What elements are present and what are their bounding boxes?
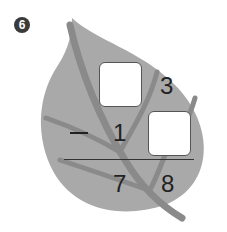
digit-result-tens: 7 xyxy=(113,172,126,196)
answer-box-subtract-ones[interactable] xyxy=(148,111,191,156)
minus-sign xyxy=(70,132,88,134)
answer-box-top-tens[interactable] xyxy=(99,62,142,107)
digit-subtract-tens: 1 xyxy=(113,121,126,145)
result-line xyxy=(64,159,194,160)
digit-result-ones: 8 xyxy=(161,172,174,196)
digit-top-ones: 3 xyxy=(160,74,173,98)
leaf-illustration xyxy=(0,0,227,232)
